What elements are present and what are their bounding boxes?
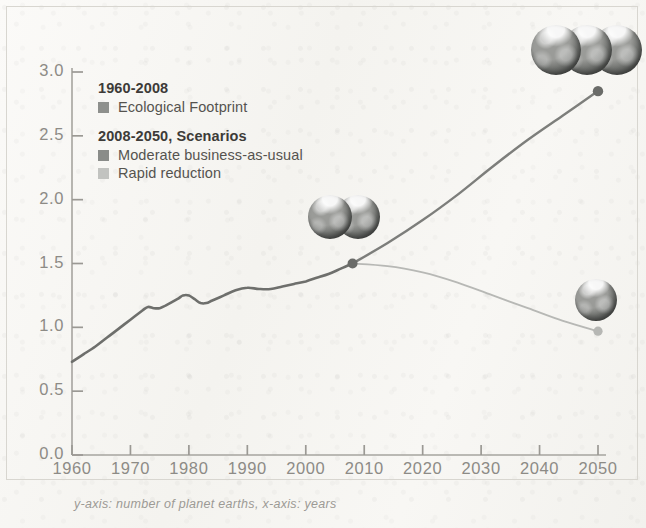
rapid-reduction-2050-node: [593, 327, 602, 336]
x-tick-label: 2040: [512, 459, 568, 478]
x-tick-label: 2010: [336, 459, 392, 478]
series-line-1: [72, 264, 353, 362]
y-tick-label: 2.5: [18, 125, 64, 144]
x-tick-marks: [72, 445, 598, 455]
legend-swatch-icon: [98, 168, 109, 179]
legend-swatch-icon: [98, 102, 109, 113]
ecological-footprint-chart: 3.02.52.01.51.00.50.0 196019701980199020…: [0, 0, 646, 528]
footprint-2008-node: [348, 259, 358, 269]
legend-swatch-icon: [98, 150, 109, 161]
chart-legend: 1960-2008Ecological Footprint2008-2050, …: [98, 80, 303, 194]
earth-globe-shading: [308, 195, 352, 239]
legend-item-label: Rapid reduction: [118, 165, 221, 181]
earth-globe-shading: [531, 25, 581, 75]
chart-caption: y-axis: number of planet earths, x-axis:…: [74, 497, 337, 511]
x-tick-label: 2000: [278, 459, 334, 478]
series-line-2: [353, 91, 599, 263]
legend-group-title: 1960-2008: [98, 80, 303, 96]
earth-globe-icon: [531, 25, 581, 75]
y-tick-label: 3.0: [18, 61, 64, 80]
earth-globe-icon: [308, 195, 352, 239]
legend-item-label: Moderate business-as-usual: [118, 147, 303, 163]
x-tick-label: 2020: [395, 459, 451, 478]
y-tick-label: 1.0: [18, 316, 64, 335]
series-line-3: [353, 264, 599, 332]
y-tick-label: 2.0: [18, 189, 64, 208]
y-tick-label: 0.5: [18, 380, 64, 399]
earth-globe-shading: [575, 279, 617, 321]
y-tick-marks: [72, 72, 83, 455]
legend-item[interactable]: Rapid reduction: [98, 165, 303, 181]
legend-item[interactable]: Moderate business-as-usual: [98, 147, 303, 163]
x-tick-label: 1960: [44, 459, 100, 478]
earth-globe-icon: [575, 279, 617, 321]
x-tick-label: 2030: [453, 459, 509, 478]
legend-group-2: 2008-2050, ScenariosModerate business-as…: [98, 128, 303, 181]
x-tick-label: 1990: [219, 459, 275, 478]
business-as-usual-2050-node: [593, 86, 603, 96]
x-tick-label: 1970: [102, 459, 158, 478]
y-tick-label: 1.5: [18, 253, 64, 272]
legend-group-title: 2008-2050, Scenarios: [98, 128, 303, 144]
legend-item[interactable]: Ecological Footprint: [98, 99, 303, 115]
plot-canvas: [0, 0, 646, 528]
x-tick-label: 1980: [161, 459, 217, 478]
x-tick-label: 2050: [570, 459, 626, 478]
legend-item-label: Ecological Footprint: [118, 99, 247, 115]
legend-group-1: 1960-2008Ecological Footprint: [98, 80, 303, 115]
data-point-markers: [348, 86, 604, 336]
